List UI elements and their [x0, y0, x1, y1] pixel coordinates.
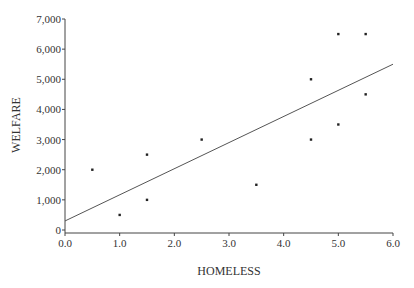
data-point — [364, 33, 366, 35]
x-axis-title: HOMELESS — [197, 264, 260, 278]
x-tick-label: 0.0 — [58, 237, 72, 249]
data-point — [200, 138, 202, 140]
data-point — [255, 184, 257, 186]
y-tick-label: 1,000 — [36, 194, 61, 206]
x-tick-label: 2.0 — [167, 237, 181, 249]
y-tick-label: 5,000 — [36, 73, 61, 85]
x-axis: 0.01.02.03.04.05.06.0 — [58, 233, 400, 249]
data-point — [91, 169, 93, 171]
y-tick-label: 4,000 — [36, 103, 61, 115]
data-point — [146, 153, 148, 155]
data-point — [310, 78, 312, 80]
y-tick-label: 7,000 — [36, 13, 61, 25]
regression-line — [65, 64, 393, 221]
y-tick-label: 2,000 — [36, 164, 61, 176]
y-tick-label: 6,000 — [36, 43, 61, 55]
data-point — [337, 123, 339, 125]
y-axis: 01,0002,0003,0004,0005,0006,0007,000 — [36, 13, 65, 236]
y-tick-label: 0 — [56, 224, 62, 236]
scatter-chart: 01,0002,0003,0004,0005,0006,0007,000 0.0… — [0, 0, 414, 288]
data-point — [310, 138, 312, 140]
data-point — [118, 214, 120, 216]
x-tick-label: 4.0 — [277, 237, 291, 249]
x-tick-label: 1.0 — [113, 237, 127, 249]
y-tick-label: 3,000 — [36, 134, 61, 146]
x-tick-label: 3.0 — [222, 237, 236, 249]
x-tick-label: 6.0 — [386, 237, 400, 249]
y-axis-title: WELFARE — [9, 97, 23, 153]
x-tick-label: 5.0 — [331, 237, 345, 249]
data-point — [337, 33, 339, 35]
data-point — [364, 93, 366, 95]
data-point — [146, 199, 148, 201]
